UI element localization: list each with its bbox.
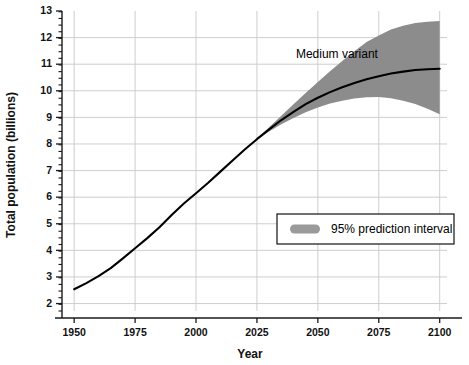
x-tick-label: 2050 [306, 326, 330, 338]
x-axis-title: Year [237, 347, 263, 361]
legend-swatch [290, 225, 320, 234]
y-tick-label: 7 [46, 164, 52, 176]
y-tick-label: 5 [46, 217, 52, 229]
y-tick-label: 6 [46, 190, 52, 202]
legend-label: 95% prediction interval [331, 222, 452, 236]
x-tick-label: 1975 [123, 326, 147, 338]
y-tick-label: 9 [46, 111, 52, 123]
x-tick-label: 2075 [367, 326, 391, 338]
x-tick-label: 1950 [63, 326, 87, 338]
band-area [257, 21, 440, 140]
y-tick-label: 4 [46, 244, 52, 256]
y-tick-label: 3 [46, 270, 52, 282]
x-axis-ticks [74, 318, 440, 323]
chart-canvas: 2345678910111213 19501975200020252050207… [0, 0, 469, 365]
y-tick-label: 12 [40, 31, 52, 43]
prediction-interval-band [257, 21, 440, 140]
y-axis-ticks [56, 11, 62, 311]
y-tick-label: 11 [41, 57, 52, 69]
x-tick-label: 2100 [428, 326, 452, 338]
chart-annotations: Medium variant [296, 47, 379, 61]
x-axis-tick-labels: 1950197520002025205020752100 [63, 326, 452, 338]
y-tick-label: 8 [46, 137, 52, 149]
y-tick-label: 13 [40, 4, 52, 16]
y-axis-title: Total population (billions) [4, 92, 18, 238]
population-projection-chart: 2345678910111213 19501975200020252050207… [0, 0, 469, 365]
x-tick-label: 2000 [184, 326, 208, 338]
y-tick-label: 2 [46, 297, 52, 309]
y-tick-label: 10 [40, 84, 52, 96]
x-tick-label: 2025 [245, 326, 269, 338]
chart-legend: 95% prediction interval [277, 214, 454, 244]
medium-variant-label: Medium variant [296, 47, 379, 61]
y-axis-tick-labels: 2345678910111213 [40, 4, 52, 309]
